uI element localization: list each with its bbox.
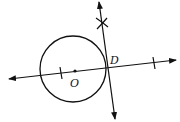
line-od	[9, 60, 176, 79]
construction-diagram: O D	[0, 0, 180, 122]
label-o: O	[70, 77, 79, 90]
label-d: D	[109, 54, 119, 67]
point-o	[73, 69, 76, 72]
